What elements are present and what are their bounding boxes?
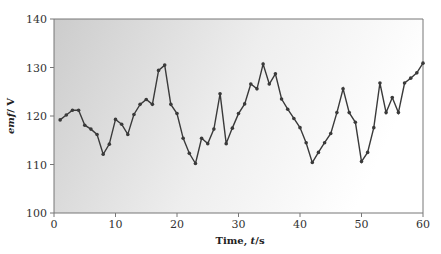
data-point: [347, 111, 351, 115]
data-point: [286, 107, 290, 111]
x-tick-label: 50: [355, 218, 369, 231]
data-point: [317, 151, 321, 155]
data-point: [255, 87, 259, 91]
data-point: [243, 102, 247, 106]
data-point: [366, 151, 370, 155]
data-point: [274, 72, 278, 76]
data-point: [83, 123, 87, 127]
data-point: [175, 112, 179, 116]
data-point: [415, 71, 419, 75]
data-point: [132, 113, 136, 117]
data-point: [237, 112, 241, 116]
data-point: [354, 121, 358, 125]
data-point: [267, 82, 271, 86]
data-point: [206, 142, 210, 146]
data-point: [212, 127, 216, 131]
data-point: [71, 108, 75, 112]
data-point: [378, 81, 382, 85]
y-tick-label: 100: [26, 207, 47, 220]
data-point: [292, 117, 296, 121]
data-point: [77, 108, 81, 112]
data-point: [323, 141, 327, 145]
data-point: [144, 98, 148, 102]
plot-area: [54, 19, 423, 213]
data-point: [89, 127, 93, 131]
x-tick-label: 40: [293, 218, 307, 231]
data-point: [311, 161, 315, 165]
data-point: [421, 61, 425, 65]
data-point: [390, 96, 394, 100]
data-point: [108, 142, 112, 146]
data-point: [194, 162, 198, 166]
data-point: [218, 92, 222, 96]
data-point: [329, 132, 333, 136]
data-point: [126, 133, 130, 137]
data-point: [372, 126, 376, 130]
data-point: [304, 141, 308, 145]
data-point: [157, 69, 161, 73]
x-tick-label: 0: [51, 218, 58, 231]
data-point: [138, 103, 142, 107]
emf-time-chart: 0102030405060100110120130140 Time, t/s e…: [0, 0, 441, 254]
data-point: [335, 111, 339, 115]
data-point: [224, 142, 228, 146]
y-tick-label: 130: [26, 62, 47, 75]
x-tick-label: 10: [109, 218, 123, 231]
y-tick-label: 120: [26, 110, 47, 123]
data-point: [151, 103, 155, 107]
data-point: [384, 111, 388, 115]
x-axis-label: Time, t/s: [215, 235, 264, 247]
data-point: [169, 103, 173, 107]
data-point: [249, 82, 253, 86]
data-point: [95, 133, 99, 137]
x-tick-label: 30: [232, 218, 246, 231]
y-tick-label: 140: [26, 13, 47, 26]
x-tick-label: 20: [170, 218, 184, 231]
y-tick-label: 110: [26, 159, 47, 172]
data-point: [261, 62, 265, 66]
data-point: [101, 153, 105, 157]
data-point: [231, 126, 235, 130]
data-point: [58, 118, 62, 122]
data-point: [298, 126, 302, 130]
data-point: [181, 137, 185, 141]
data-point: [65, 113, 69, 117]
data-point: [360, 160, 364, 164]
data-point: [188, 152, 192, 156]
data-point: [280, 97, 284, 101]
data-point: [120, 122, 124, 126]
x-tick-label: 60: [416, 218, 430, 231]
data-point: [200, 137, 204, 141]
data-point: [403, 81, 407, 85]
y-axis-label: emf/ V: [5, 98, 16, 134]
data-point: [397, 111, 401, 115]
data-point: [114, 118, 118, 122]
data-point: [341, 87, 345, 91]
data-point: [409, 76, 413, 80]
data-point: [163, 63, 167, 67]
